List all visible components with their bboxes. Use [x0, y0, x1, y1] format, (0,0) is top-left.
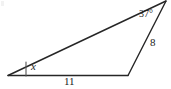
side-right-label: 8 — [150, 37, 156, 48]
angle-37-label: 37° — [139, 9, 153, 19]
angle-x-label: x — [31, 61, 36, 72]
side-bottom-label: 11 — [64, 76, 75, 87]
triangle-figure: x 37° 8 11 — [0, 0, 171, 89]
